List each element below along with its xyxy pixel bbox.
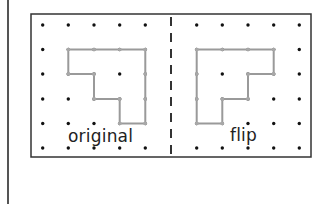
flip-edge-dot (221, 97, 225, 101)
flip-edge-dot (246, 97, 250, 101)
original-edge-dot (118, 48, 122, 52)
right-grid-dot (246, 146, 249, 149)
original-shape (68, 50, 145, 124)
left-grid-dot (41, 97, 44, 100)
flip-edge-dot (221, 48, 225, 52)
right-grid-dot (298, 97, 301, 100)
left-grid-dot (41, 72, 44, 75)
original-edge-dot (67, 72, 71, 76)
original-edge-dot (118, 97, 122, 101)
flip-edge-dot (246, 72, 250, 76)
right-grid-dot (272, 23, 275, 26)
flip-edge-dot (221, 122, 225, 126)
flip-edge-dot (272, 48, 276, 52)
flip-edge-dot (272, 72, 276, 76)
right-grid-dot (221, 23, 224, 26)
original-edge-dot (118, 122, 122, 126)
original-edge-dot (144, 97, 148, 101)
original-edge-dot (144, 72, 148, 76)
left-grid-dot (67, 97, 70, 100)
right-grid-dot (195, 146, 198, 149)
right-grid-dot (272, 122, 275, 125)
right-grid-dot (272, 97, 275, 100)
original-edge-dot (144, 48, 148, 52)
reflection-diagram (0, 0, 332, 204)
left-grid-dot (41, 23, 44, 26)
left-grid-dot (92, 146, 95, 149)
right-grid-dot (195, 23, 198, 26)
flip-label: flip (230, 127, 257, 144)
left-grid-dot (41, 146, 44, 149)
left-grid-dot (92, 23, 95, 26)
left-grid-dot (41, 48, 44, 51)
left-grid-dot (41, 122, 44, 125)
left-grid-dot (67, 23, 70, 26)
right-grid-dot (298, 122, 301, 125)
flip-edge-dot (195, 97, 199, 101)
left-grid-dot (118, 23, 121, 26)
flip-edge-dot (195, 72, 199, 76)
left-grid-dot (144, 146, 147, 149)
left-grid-dot (144, 23, 147, 26)
right-grid-dot (221, 146, 224, 149)
original-edge-dot (92, 48, 96, 52)
left-grid-dot (67, 146, 70, 149)
right-grid-dot (298, 146, 301, 149)
right-grid-dot (298, 48, 301, 51)
right-grid-dot (246, 23, 249, 26)
original-edge-dot (92, 72, 96, 76)
flip-shape (197, 50, 274, 124)
original-edge-dot (67, 48, 71, 52)
original-edge-dot (144, 122, 148, 126)
original-label: original (68, 128, 133, 145)
original-edge-dot (92, 97, 96, 101)
flip-edge-dot (246, 48, 250, 52)
left-grid-dot (92, 122, 95, 125)
left-grid-dot (118, 146, 121, 149)
right-grid-dot (298, 23, 301, 26)
right-grid-dot (272, 146, 275, 149)
flip-edge-dot (195, 122, 199, 126)
left-grid-dot (67, 122, 70, 125)
right-grid-dot (298, 72, 301, 75)
flip-edge-dot (195, 48, 199, 52)
